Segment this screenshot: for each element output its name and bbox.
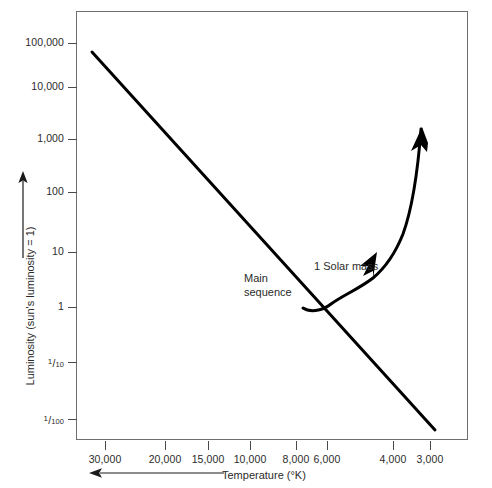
x-tick-label-10000: 10,000 xyxy=(234,453,267,465)
y-tick-mark-10000 xyxy=(68,87,77,88)
annotation-solar-mass: 1 Solar mass xyxy=(314,260,378,274)
y-tick-mark-hundredth xyxy=(68,419,77,420)
y-tick-mark-tenth xyxy=(68,362,77,363)
y-tick-label-10: 10 xyxy=(52,246,64,257)
y-tick-label-hundredth: 1/100 xyxy=(44,413,64,427)
x-tick-label-15000: 15,000 xyxy=(192,453,225,465)
x-tick-label-20000: 20,000 xyxy=(149,453,182,465)
x-tick-mark-15000 xyxy=(208,441,209,450)
x-tick-mark-30000 xyxy=(105,441,106,450)
x-tick-label-30000: 30,000 xyxy=(89,453,122,465)
y-tick-label-100: 100 xyxy=(46,186,64,197)
y-axis-title: Luminosity (sun's luminosity = 1) xyxy=(24,181,36,431)
x-tick-mark-6000 xyxy=(327,441,328,450)
solar-mass-track xyxy=(303,129,421,311)
fraction-denominator: 100 xyxy=(51,417,64,426)
x-tick-label-6000: 6,000 xyxy=(314,453,341,465)
x-tick-mark-3000 xyxy=(430,441,431,450)
y-tick-label-1: 1 xyxy=(58,301,64,312)
x-tick-mark-4000 xyxy=(393,441,394,450)
y-tick-mark-100000 xyxy=(68,43,77,44)
hr-diagram-figure: Main sequence 1 Solar mass 100,000 10,00… xyxy=(0,0,492,488)
y-tick-label-10000: 10,000 xyxy=(31,81,64,92)
x-axis-arrow-icon xyxy=(88,465,228,481)
annotation-main-sequence: Main sequence xyxy=(244,272,292,299)
y-tick-label-tenth: 1/10 xyxy=(48,356,64,370)
y-tick-mark-100 xyxy=(68,192,77,193)
x-tick-label-8000: 8,000 xyxy=(283,453,310,465)
x-tick-label-3000: 3,000 xyxy=(417,453,444,465)
x-tick-mark-20000 xyxy=(165,441,166,450)
y-tick-mark-1000 xyxy=(68,139,77,140)
y-tick-mark-1 xyxy=(68,307,77,308)
y-tick-label-1000: 1,000 xyxy=(37,133,64,144)
plot-area: Main sequence 1 Solar mass xyxy=(76,11,468,440)
main-sequence-line xyxy=(92,52,435,430)
x-tick-label-4000: 4,000 xyxy=(380,453,407,465)
fraction-denominator: 10 xyxy=(55,360,64,369)
plot-canvas xyxy=(77,12,467,439)
x-tick-mark-8000 xyxy=(296,441,297,450)
y-tick-label-100000: 100,000 xyxy=(25,37,64,48)
y-tick-mark-10 xyxy=(68,252,77,253)
x-axis-title: Temperature (°K) xyxy=(222,469,306,481)
x-tick-mark-10000 xyxy=(250,441,251,450)
